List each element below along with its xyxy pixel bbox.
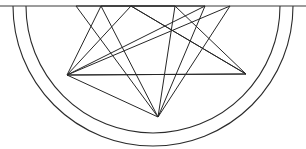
polygon-edge-BI	[76, 6, 158, 117]
figure-canvas	[0, 0, 306, 149]
polygon-edge-EI	[158, 6, 175, 117]
polygon-edge-CI	[101, 6, 158, 117]
polygon-edge-AD	[67, 6, 131, 75]
polygon-edge-AF	[67, 6, 205, 75]
star-polygon-edges	[67, 6, 246, 117]
polygon-edge-GI	[158, 6, 230, 117]
outer-arc	[13, 6, 293, 146]
polygon-edge-HD	[131, 6, 246, 74]
polygon-edge-HE	[175, 6, 246, 74]
polygon-edge-FI	[158, 6, 205, 117]
geometry-svg	[0, 0, 306, 149]
polygon-edge-AH	[67, 74, 246, 75]
